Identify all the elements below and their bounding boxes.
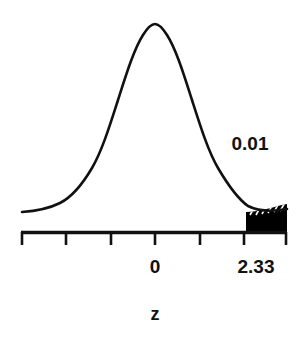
normal-curve — [22, 24, 287, 212]
tail-area-label: 0.01 — [232, 133, 269, 154]
tick-label-critical: 2.33 — [238, 256, 275, 277]
distribution-chart: 0.01 0 2.33 z — [0, 0, 302, 340]
x-axis-title: z — [151, 304, 160, 324]
shaded-tail-region — [246, 201, 287, 232]
tick-label-zero: 0 — [150, 256, 161, 277]
normal-curve-figure: 0.01 0 2.33 z — [0, 0, 302, 340]
